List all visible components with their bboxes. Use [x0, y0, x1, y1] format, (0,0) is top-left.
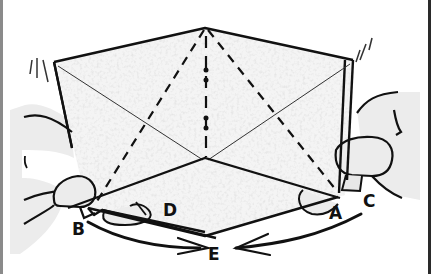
diagram-frame: B D E A C	[0, 0, 433, 274]
label-c: C	[363, 191, 375, 211]
motion-lines-left	[30, 58, 48, 82]
label-a: A	[329, 203, 343, 223]
label-d: D	[163, 200, 177, 220]
label-b: B	[72, 219, 85, 239]
motion-lines-right	[356, 38, 372, 62]
origami-illustration: B D E A C	[0, 0, 433, 274]
label-e: E	[208, 244, 220, 264]
